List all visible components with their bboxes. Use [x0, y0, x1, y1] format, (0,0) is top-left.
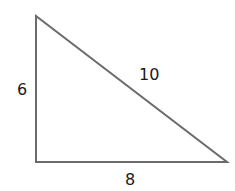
left-side-label: 6	[17, 82, 27, 98]
hypotenuse-label: 10	[139, 67, 159, 83]
bottom-side-label: 8	[125, 172, 135, 188]
right-triangle	[0, 0, 235, 191]
triangle-outline	[36, 16, 227, 162]
